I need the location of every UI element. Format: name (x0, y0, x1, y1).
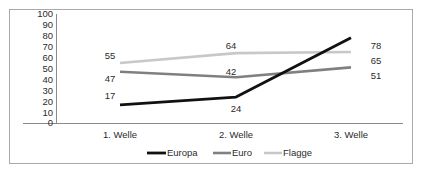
y-tick-label: 30 (42, 85, 53, 96)
y-tick-label: 50 (42, 63, 53, 74)
y-tick-label: 60 (42, 52, 53, 63)
legend-label-europa: Europa (167, 147, 198, 158)
chart-plot-area: 100 90 80 70 60 50 40 30 20 10 0 55 64 6… (10, 10, 414, 165)
legend-label-euro: Euro (232, 147, 252, 158)
category-label-2: 2. Welle (219, 129, 253, 140)
y-tick-label: 100 (37, 10, 53, 19)
data-label-euro-1: 47 (105, 73, 116, 84)
y-axis-tick-labels: 100 90 80 70 60 50 40 30 20 10 0 (37, 10, 53, 128)
y-tick-label: 0 (48, 117, 53, 128)
y-tick-label: 90 (42, 19, 53, 30)
category-label-3: 3. Welle (334, 129, 368, 140)
line-chart: 100 90 80 70 60 50 40 30 20 10 0 55 64 6… (10, 10, 414, 165)
x-axis-category-labels: 1. Welle 2. Welle 3. Welle (103, 129, 368, 140)
data-label-flagge-1: 55 (105, 50, 116, 61)
category-label-1: 1. Welle (103, 129, 137, 140)
data-label-euro-3: 51 (371, 70, 382, 81)
legend-label-flagge: Flagge (283, 147, 312, 158)
data-label-europa-1: 17 (105, 90, 116, 101)
data-label-flagge-2: 64 (226, 40, 237, 51)
y-tick-label: 40 (42, 74, 53, 85)
y-tick-label: 20 (42, 96, 53, 107)
y-tick-label: 70 (42, 41, 53, 52)
series-line-flagge (120, 52, 351, 63)
data-label-europa-3: 78 (371, 40, 382, 51)
data-label-flagge-3: 65 (371, 55, 382, 66)
chart-frame: 100 90 80 70 60 50 40 30 20 10 0 55 64 6… (9, 9, 413, 164)
chart-legend: Europa Euro Flagge (147, 147, 312, 158)
data-label-europa-2: 24 (231, 103, 242, 114)
data-label-euro-2: 42 (226, 66, 237, 77)
y-tick-label: 80 (42, 30, 53, 41)
